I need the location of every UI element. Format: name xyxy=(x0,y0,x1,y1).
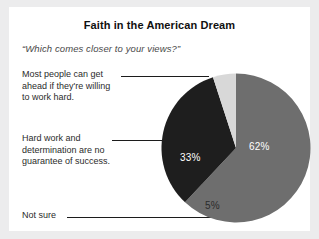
callout-label-skeptic: Hard work and determination are no guara… xyxy=(22,133,134,168)
page-title: Faith in the American Dream xyxy=(9,19,310,31)
chart-card: Faith in the American Dream “Which comes… xyxy=(9,7,310,231)
leader-line-skeptic xyxy=(112,140,167,141)
pie-value-notsure: 5% xyxy=(205,200,220,211)
callout-label-majority: Most people can get ahead if they're wil… xyxy=(22,69,130,104)
pie-chart-svg xyxy=(161,73,311,223)
pie-chart: 62% 33% 5% xyxy=(161,73,311,223)
pie-value-majority: 62% xyxy=(249,141,270,152)
chart-subtitle: “Which comes closer to your views?” xyxy=(22,43,180,54)
callout-label-notsure: Not sure xyxy=(22,210,82,222)
pie-value-skeptic: 33% xyxy=(180,152,201,163)
